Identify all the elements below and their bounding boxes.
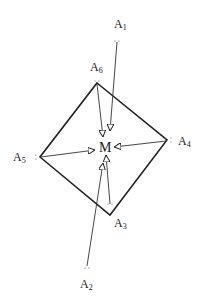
arrow-a2-to-m <box>87 163 103 266</box>
arrow-a3-to-m <box>106 155 110 204</box>
label-a3: A3 <box>114 217 127 231</box>
diagram-canvas: A1 A6 A4 A5 A3 A2 M <box>0 0 203 302</box>
arrow-a1-to-m <box>110 42 117 131</box>
arrow-a6-to-m <box>97 84 103 137</box>
label-a2: A2 <box>80 278 93 292</box>
label-a1: A1 <box>114 18 127 32</box>
label-a6: A6 <box>90 61 103 75</box>
label-a4: A4 <box>178 135 191 149</box>
arrow-a5-to-m <box>41 150 95 157</box>
label-a5: A5 <box>13 151 26 165</box>
arrow-a4-to-m <box>114 141 166 147</box>
label-center-m: M <box>99 141 111 155</box>
